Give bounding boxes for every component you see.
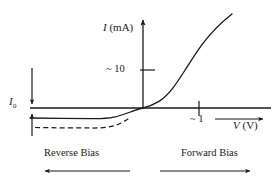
reverse-saturation-dashed-curve (35, 118, 129, 128)
forward-bias-label: Forward Bias (181, 148, 238, 159)
y-axis-label-unit: (mA) (109, 21, 133, 33)
x-axis-tick-label: ~ 1 (190, 114, 204, 125)
x-axis-label-unit: (V) (242, 119, 257, 131)
diode-iv-characteristic-figure: I (mA) V (V) ~ 10 ~ 1 Io Reverse Bias Fo… (0, 0, 280, 190)
y-axis-label: I (mA) (103, 22, 133, 33)
x-axis-label: V (V) (233, 120, 258, 131)
saturation-current-subscript: o (13, 101, 17, 110)
diode-curve-graphic (0, 0, 280, 190)
reverse-bias-label: Reverse Bias (44, 148, 99, 159)
y-axis-tick-label: ~ 10 (106, 64, 125, 75)
x-axis-label-symbol: V (233, 119, 240, 131)
saturation-current-label: Io (9, 96, 16, 110)
